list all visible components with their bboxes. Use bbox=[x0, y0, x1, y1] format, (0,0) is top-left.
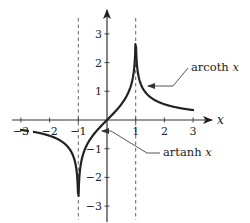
x-tick-label: 2 bbox=[161, 125, 168, 138]
x-tick-label: 3 bbox=[190, 125, 197, 138]
annotations: arcoth xartanh x bbox=[102, 60, 239, 159]
arcoth-label: arcoth x bbox=[191, 60, 239, 74]
arcoth-label-name: arcoth bbox=[191, 60, 232, 74]
artanh-leader-line bbox=[102, 131, 160, 153]
y-tick-label: 3 bbox=[95, 28, 102, 41]
artanh-label-var: x bbox=[205, 145, 212, 159]
arcoth-leader-line bbox=[148, 68, 188, 86]
axes: x bbox=[12, 10, 224, 222]
arcoth-curve-right bbox=[136, 47, 193, 111]
y-tick-label: −3 bbox=[86, 200, 102, 213]
x-axis-label: x bbox=[217, 113, 224, 127]
y-tick-label: 1 bbox=[95, 85, 102, 98]
arcoth-label-var: x bbox=[232, 60, 239, 74]
x-tick-label: 1 bbox=[132, 125, 139, 138]
x-tick-label: −1 bbox=[70, 125, 86, 138]
arcoth-curve-left bbox=[21, 130, 78, 194]
artanh-label-name: artanh bbox=[163, 145, 205, 159]
curve-label-gap bbox=[29, 129, 33, 139]
artanh-label: artanh x bbox=[163, 145, 212, 159]
y-tick-label: 2 bbox=[95, 57, 102, 70]
y-tick-label: −2 bbox=[86, 171, 102, 184]
inverse-hyperbolic-chart: x −3−2−1123 321−1−2−3 arcoth xartanh x bbox=[0, 0, 250, 223]
